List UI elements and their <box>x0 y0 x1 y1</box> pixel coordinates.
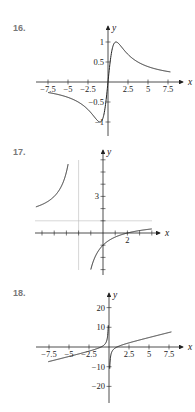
y-tick-label: −20 <box>92 381 105 391</box>
x-tick-label: 5 <box>146 84 150 94</box>
x-tick-label: 5 <box>147 349 151 359</box>
y-tick-label: 0.5 <box>93 57 104 67</box>
y-tick-label: 20 <box>97 303 106 313</box>
x-axis-label: x <box>187 342 193 352</box>
graph-17: xy23 <box>35 147 170 275</box>
x-axis-label: x <box>187 77 193 87</box>
function-curve <box>110 332 172 369</box>
y-tick-label: 3 <box>95 191 99 201</box>
x-axis-label: x <box>164 228 170 238</box>
x-tick-label: 7.5 <box>164 349 175 359</box>
x-tick-label: 2.5 <box>123 84 134 94</box>
x-tick-label: −7.5 <box>41 349 56 359</box>
graph-16: xy−7.5−5−2.52.557.510.5−0.5−1 <box>36 23 193 136</box>
y-tick-label: 1 <box>100 37 104 47</box>
x-tick-label: 7.5 <box>163 84 174 94</box>
graph-18: xy−7.5−5−2.52.557.52010−10−20 <box>36 290 193 403</box>
function-curve <box>91 229 152 270</box>
x-tick-label: −2.5 <box>80 84 95 94</box>
plots: xy−7.5−5−2.52.557.510.5−0.5−1 xy23 xy−7.… <box>0 0 195 412</box>
x-tick-label: 2 <box>125 235 129 245</box>
y-axis-label: y <box>111 23 117 33</box>
y-axis-label: y <box>106 147 112 157</box>
x-tick-label: −2.5 <box>81 349 96 359</box>
function-curve <box>36 164 68 207</box>
y-tick-label: −0.5 <box>89 97 104 107</box>
y-axis-label: y <box>112 290 118 300</box>
y-tick-label: 10 <box>97 322 106 332</box>
y-tick-label: −10 <box>92 362 105 372</box>
x-tick-label: 2.5 <box>124 349 135 359</box>
x-tick-label: −5 <box>63 84 72 94</box>
